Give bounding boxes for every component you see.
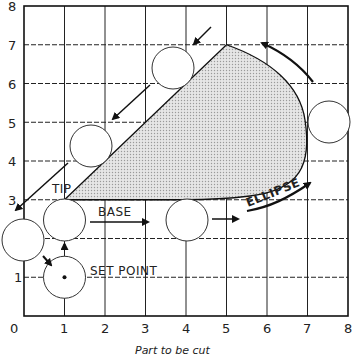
- svg-text:4: 4: [8, 154, 16, 169]
- set-point-dot: [63, 275, 67, 279]
- label-tip: TIP: [51, 182, 72, 196]
- svg-text:1: 1: [60, 321, 68, 336]
- cutter-top: [152, 47, 194, 89]
- svg-text:7: 7: [303, 321, 311, 336]
- svg-text:5: 5: [8, 116, 16, 131]
- svg-text:3: 3: [8, 193, 16, 208]
- cutter-at-tip: [44, 199, 86, 241]
- svg-text:6: 6: [8, 77, 16, 92]
- cutter-upper-left: [70, 125, 112, 167]
- svg-text:2: 2: [101, 321, 109, 336]
- label-base: BASE: [98, 205, 132, 219]
- x-axis-ticks: 0 1 2 3 4 5 6 7 8: [10, 321, 352, 336]
- svg-text:4: 4: [182, 321, 190, 336]
- svg-text:8: 8: [8, 0, 16, 14]
- cutter-right: [308, 101, 350, 143]
- svg-text:7: 7: [8, 38, 16, 53]
- diagram-stage: TIP BASE SET POINT ELLIPSE 8 7 6 5 4 3 1…: [0, 0, 357, 358]
- svg-text:3: 3: [141, 321, 149, 336]
- svg-text:8: 8: [344, 321, 352, 336]
- svg-text:0: 0: [10, 321, 18, 336]
- svg-text:5: 5: [222, 321, 230, 336]
- label-set-point: SET POINT: [90, 264, 158, 278]
- cutter-base-end: [166, 199, 208, 241]
- svg-text:1: 1: [14, 270, 22, 285]
- svg-text:6: 6: [263, 321, 271, 336]
- figure-caption: Part to be cut: [135, 344, 211, 357]
- cutter-left-start: [2, 219, 44, 261]
- cutter-path-diagram: TIP BASE SET POINT ELLIPSE 8 7 6 5 4 3 1…: [0, 0, 357, 358]
